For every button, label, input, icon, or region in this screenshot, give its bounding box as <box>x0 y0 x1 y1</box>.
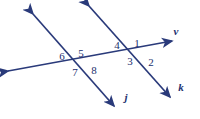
geometry-figure: 1 2 3 4 5 6 7 8 j k v <box>0 0 200 119</box>
angle-label-4: 4 <box>114 40 120 51</box>
line-k <box>89 6 170 97</box>
angle-label-6: 6 <box>59 51 65 62</box>
line-j <box>33 14 114 106</box>
angle-label-5: 5 <box>78 48 84 59</box>
angle-label-7: 7 <box>72 67 78 78</box>
line-label-k: k <box>178 82 184 93</box>
angle-label-1: 1 <box>134 38 140 49</box>
line-label-j: j <box>124 92 127 103</box>
geometry-canvas <box>0 0 200 119</box>
angle-label-2: 2 <box>148 57 154 68</box>
angle-label-8: 8 <box>91 65 97 76</box>
line-label-v: v <box>174 26 179 37</box>
angle-label-3: 3 <box>127 56 133 67</box>
